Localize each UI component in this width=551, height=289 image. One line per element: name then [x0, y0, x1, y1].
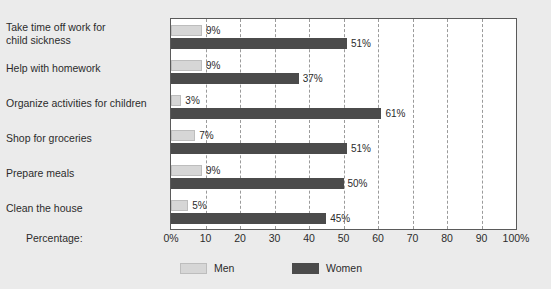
bar-value-label: 5% [192, 200, 206, 211]
legend-item-women[interactable]: Women [292, 262, 362, 274]
bar-row-group: 7%51% [171, 124, 516, 159]
bar-men [171, 60, 202, 71]
legend-label: Men [214, 262, 234, 274]
bar-value-label: 9% [206, 165, 220, 176]
x-tick-label: 60 [372, 232, 384, 244]
bar-row-group: 5%45% [171, 194, 516, 229]
x-tick-label: 100% [503, 232, 530, 244]
plot-area: 9%51%9%37%3%61%7%51%9%50%5%45% [170, 18, 517, 230]
bar-row-group: 3%61% [171, 89, 516, 124]
bar-value-label: 51% [351, 38, 371, 49]
legend-item-men[interactable]: Men [180, 262, 234, 274]
bar-rows: 9%51%9%37%3%61%7%51%9%50%5%45% [171, 19, 516, 229]
legend-swatch-women [292, 263, 319, 274]
bar-value-label: 9% [206, 60, 220, 71]
bar-men [171, 95, 181, 106]
x-axis-ticks: 0%102030405060708090100% [170, 232, 517, 250]
bar-row-group: 9%50% [171, 159, 516, 194]
bar-women [171, 73, 299, 84]
bar-women [171, 38, 347, 49]
x-tick-label: 30 [269, 232, 281, 244]
x-axis-caption: Percentage: [26, 232, 83, 244]
bar-chart: Take time off work for child sicknessHel… [0, 0, 551, 289]
category-label: Clean the house [6, 202, 162, 215]
category-label: Organize activities for children [6, 97, 162, 110]
x-tick-label: 20 [234, 232, 246, 244]
category-label: Prepare meals [6, 167, 162, 180]
bar-men [171, 130, 195, 141]
bar-women [171, 108, 381, 119]
x-tick-label: 90 [476, 232, 488, 244]
category-label-column: Take time off work for child sicknessHel… [0, 18, 170, 230]
bar-row-group: 9%37% [171, 54, 516, 89]
category-label: Take time off work for child sickness [6, 21, 162, 47]
x-tick-label: 40 [303, 232, 315, 244]
bar-men [171, 25, 202, 36]
legend-swatch-men [180, 263, 207, 274]
chart-legend: MenWomen [170, 262, 517, 278]
bar-value-label: 51% [351, 143, 371, 154]
category-label: Help with homework [6, 62, 162, 75]
x-tick-label: 70 [407, 232, 419, 244]
bar-row-group: 9%51% [171, 19, 516, 54]
bar-men [171, 200, 188, 211]
bar-men [171, 165, 202, 176]
bar-value-label: 9% [206, 25, 220, 36]
bar-value-label: 50% [348, 178, 368, 189]
bar-value-label: 7% [199, 130, 213, 141]
bar-women [171, 213, 326, 224]
bar-value-label: 37% [303, 73, 323, 84]
category-label: Shop for groceries [6, 132, 162, 145]
bar-value-label: 61% [385, 108, 405, 119]
x-tick-label: 10 [200, 232, 212, 244]
legend-label: Women [326, 262, 362, 274]
x-tick-label: 80 [441, 232, 453, 244]
bar-women [171, 178, 344, 189]
x-tick-label: 0% [163, 232, 178, 244]
bar-value-label: 3% [185, 95, 199, 106]
x-tick-label: 50 [338, 232, 350, 244]
bar-women [171, 143, 347, 154]
bar-value-label: 45% [330, 213, 350, 224]
